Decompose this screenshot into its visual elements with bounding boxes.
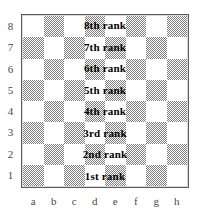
file-coordinate-h: h [167,191,188,211]
board-square-d5 [85,80,106,101]
board-square-a3 [23,122,44,143]
board-square-h1 [167,165,188,186]
file-coordinate-f: f [126,191,147,211]
rank-coordinate-2: 2 [2,144,19,165]
rank-coordinate-4: 4 [2,101,19,122]
rank-coordinate-1: 1 [2,165,19,186]
board-square-a5 [23,80,44,101]
file-coordinate-d: d [85,191,106,211]
board-square-f3 [126,122,147,143]
board-square-b8 [44,16,65,37]
chessboard-diagram: 8 7 6 5 4 3 2 1 8th rank 7th rank 6th ra… [0,0,206,219]
board-square-a1 [23,165,44,186]
board-square-d4 [85,101,106,122]
file-coordinate-c: c [64,191,85,211]
board-square-c6 [64,59,85,80]
board-square-g7 [146,37,167,58]
board-square-g2 [146,144,167,165]
board-square-d8 [85,16,106,37]
board-square-e5 [105,80,126,101]
board-square-c4 [64,101,85,122]
board-square-f1 [126,165,147,186]
board-square-f5 [126,80,147,101]
board-square-c7 [64,37,85,58]
board-square-h8 [167,16,188,37]
board-square-e4 [105,101,126,122]
board-square-g1 [146,165,167,186]
board-square-g6 [146,59,167,80]
board-square-a6 [23,59,44,80]
file-coordinate-a: a [23,191,44,211]
board-square-a4 [23,101,44,122]
board-square-e8 [105,16,126,37]
board-square-f4 [126,101,147,122]
board-square-c3 [64,122,85,143]
board-square-a2 [23,144,44,165]
board-square-e7 [105,37,126,58]
board-square-e2 [105,144,126,165]
rank-coordinate-5: 5 [2,80,19,101]
file-coordinate-g: g [146,191,167,211]
board-square-h4 [167,101,188,122]
chessboard-grid [23,16,187,186]
board-square-b5 [44,80,65,101]
board-square-c8 [64,16,85,37]
board-square-b4 [44,101,65,122]
board-square-a8 [23,16,44,37]
file-coordinate-b: b [44,191,65,211]
rank-coordinate-7: 7 [2,37,19,58]
rank-coordinate-column: 8 7 6 5 4 3 2 1 [2,16,19,186]
board-square-b1 [44,165,65,186]
board-square-d6 [85,59,106,80]
board-square-h6 [167,59,188,80]
board-square-h7 [167,37,188,58]
board-square-d7 [85,37,106,58]
board-square-b2 [44,144,65,165]
board-square-g5 [146,80,167,101]
board-square-d1 [85,165,106,186]
board-square-g4 [146,101,167,122]
board-square-b6 [44,59,65,80]
board-square-b7 [44,37,65,58]
board-square-e3 [105,122,126,143]
board-square-f2 [126,144,147,165]
board-square-c5 [64,80,85,101]
rank-coordinate-6: 6 [2,59,19,80]
board-square-f8 [126,16,147,37]
board-square-g3 [146,122,167,143]
board-square-a7 [23,37,44,58]
board-square-g8 [146,16,167,37]
board-square-h2 [167,144,188,165]
rank-coordinate-3: 3 [2,122,19,143]
board-square-d3 [85,122,106,143]
board-frame: 8th rank 7th rank 6th rank 5th rank 4th … [21,14,189,188]
board-square-c2 [64,144,85,165]
board-square-d2 [85,144,106,165]
board-square-f7 [126,37,147,58]
file-coordinate-row: a b c d e f g h [23,191,187,211]
board-square-h5 [167,80,188,101]
board-square-e1 [105,165,126,186]
board-square-f6 [126,59,147,80]
file-coordinate-e: e [105,191,126,211]
rank-coordinate-8: 8 [2,16,19,37]
board-square-h3 [167,122,188,143]
board-square-b3 [44,122,65,143]
board-square-e6 [105,59,126,80]
board-square-c1 [64,165,85,186]
